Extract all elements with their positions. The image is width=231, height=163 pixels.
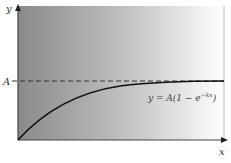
exponential-diagram: y x A y = A(1 − e−kx): [0, 0, 231, 163]
plot-area: [18, 6, 224, 140]
asymptote-label: A: [2, 76, 10, 87]
y-axis-label: y: [5, 3, 12, 14]
x-axis-label: x: [219, 146, 225, 157]
